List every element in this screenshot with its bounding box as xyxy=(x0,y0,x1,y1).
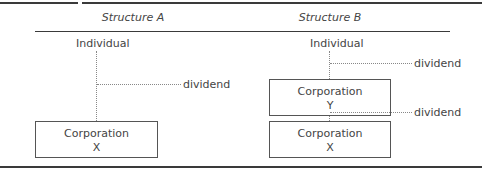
structure-b-dividend-label-top: dividend xyxy=(414,57,461,70)
structure-b-corporation-x: Corporation X xyxy=(269,121,391,158)
corp-name: Corporation xyxy=(270,85,390,99)
header-rule xyxy=(35,31,450,32)
structure-b-individual: Individual xyxy=(310,37,364,50)
structure-b-corporation-y: Corporation Y xyxy=(269,79,391,116)
structure-a-corporation-x: Corporation X xyxy=(35,121,158,158)
structure-a-dividend-line xyxy=(97,84,181,85)
bottom-rule xyxy=(0,166,482,168)
corp-name: Corporation xyxy=(270,127,390,141)
corp-name: Corporation xyxy=(36,127,157,141)
top-rule-right xyxy=(82,2,482,4)
corp-letter: Y xyxy=(270,99,390,113)
structure-a-dividend-label: dividend xyxy=(183,78,230,91)
structure-b-dividend-label-bottom: dividend xyxy=(414,106,461,119)
structure-b-ownership-line-top xyxy=(329,51,330,81)
structure-a-title: Structure A xyxy=(53,11,213,24)
structure-a-individual: Individual xyxy=(76,37,130,50)
top-rule-left xyxy=(0,2,78,4)
corp-letter: X xyxy=(36,141,157,155)
structure-b-dividend-line-bottom xyxy=(330,112,412,113)
corp-letter: X xyxy=(270,141,390,155)
structure-b-title: Structure B xyxy=(250,11,410,24)
structure-b-dividend-line-top xyxy=(330,63,412,64)
